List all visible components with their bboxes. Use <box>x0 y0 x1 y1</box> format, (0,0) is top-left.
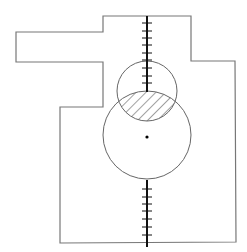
diagram-svg <box>0 0 247 252</box>
center-dot <box>145 135 148 138</box>
diagram-canvas <box>0 0 247 252</box>
room-outline <box>16 16 236 243</box>
